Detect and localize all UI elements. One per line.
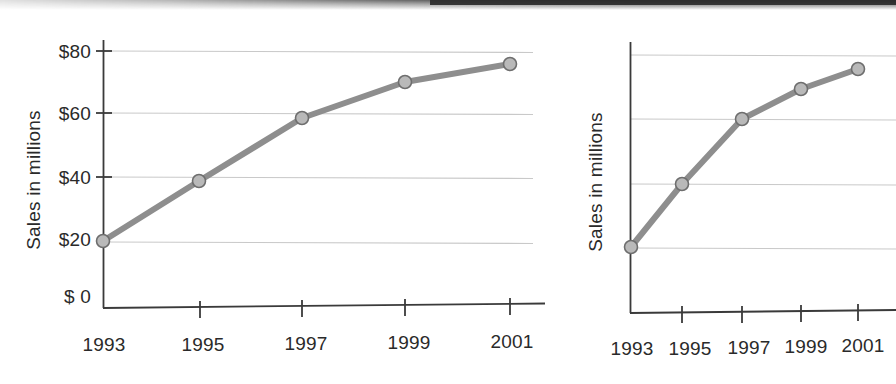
left-ytick-label-80: $80 [59, 41, 91, 62]
left-gridlines [103, 51, 533, 244]
data-point-1993[interactable] [625, 241, 638, 254]
data-point-1997[interactable] [296, 112, 309, 125]
left-xtick-label-2001: 2001 [490, 331, 533, 352]
data-point-1997[interactable] [736, 113, 749, 126]
gridline-40 [103, 177, 533, 179]
figure-page: $80 $60 $40 $20 $ 0 1993 1995 1997 1999 … [0, 0, 896, 384]
left-series-line [103, 64, 510, 241]
right-x-axis-line [630, 310, 896, 313]
left-data-markers [97, 58, 517, 248]
left-x-axis-line [103, 304, 545, 309]
left-xtick-label-1999: 1999 [387, 332, 430, 353]
data-point-1999[interactable] [399, 76, 412, 89]
left-y-axis-title: Sales in millions [23, 110, 44, 250]
gridline-60 [630, 119, 896, 120]
data-point-1993[interactable] [97, 235, 110, 248]
left-x-ticks [200, 298, 510, 318]
left-xtick-label-1993: 1993 [82, 334, 125, 355]
data-point-1995[interactable] [193, 175, 206, 188]
gridline-40 [630, 184, 896, 185]
gridline-80 [630, 55, 896, 56]
left-ytick-label-40: $40 [59, 167, 91, 188]
data-point-1995[interactable] [676, 178, 689, 191]
right-line-chart: 1993 1995 1997 1999 2001 Sales in millio… [560, 0, 896, 384]
data-point-2001[interactable] [852, 63, 865, 76]
gridline-20 [630, 248, 896, 249]
right-xtick-label-1997: 1997 [727, 337, 770, 358]
data-point-1999[interactable] [795, 83, 808, 96]
right-data-markers [625, 63, 865, 254]
right-series-line [631, 69, 858, 247]
right-xtick-label-1999: 1999 [784, 336, 827, 357]
left-ytick-label-20: $20 [59, 229, 91, 250]
left-ytick-label-60: $60 [59, 103, 91, 124]
left-xtick-label-1997: 1997 [284, 333, 327, 354]
right-xtick-label-1995: 1995 [668, 338, 711, 359]
right-y-axis-title: Sales in millions [585, 112, 606, 252]
right-gridlines [630, 55, 896, 249]
data-point-2001[interactable] [504, 58, 517, 71]
left-line-chart: $80 $60 $40 $20 $ 0 1993 1995 1997 1999 … [0, 0, 560, 384]
left-xtick-label-1995: 1995 [181, 334, 224, 355]
gridline-20 [103, 242, 533, 244]
right-x-ticks [682, 304, 858, 323]
gridline-80 [103, 51, 533, 53]
right-xtick-label-2001: 2001 [841, 335, 884, 356]
left-ytick-label-0: $ 0 [64, 286, 91, 307]
right-xtick-label-1993: 1993 [610, 338, 653, 359]
